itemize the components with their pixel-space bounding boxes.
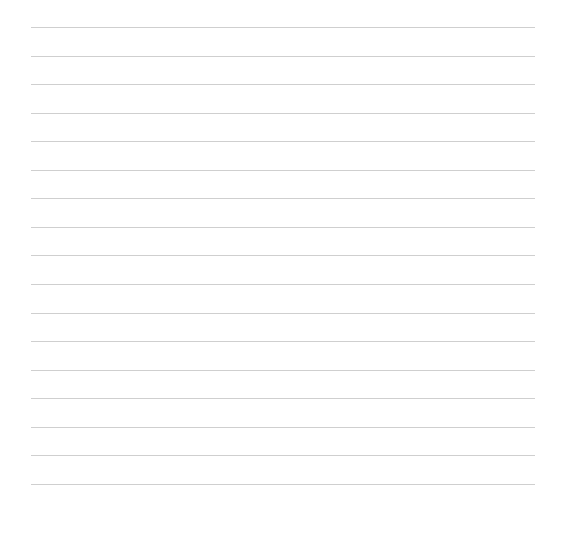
ruled-line xyxy=(31,227,535,228)
ruled-line xyxy=(31,484,535,485)
ruled-line xyxy=(31,141,535,142)
ruled-line xyxy=(31,84,535,85)
ruled-line xyxy=(31,113,535,114)
ruled-line xyxy=(31,284,535,285)
ruled-line xyxy=(31,455,535,456)
ruled-line xyxy=(31,255,535,256)
ruled-line xyxy=(31,313,535,314)
ruled-line xyxy=(31,198,535,199)
ruled-line xyxy=(31,56,535,57)
ruled-line xyxy=(31,398,535,399)
ruled-line xyxy=(31,27,535,28)
ruled-line xyxy=(31,427,535,428)
ruled-line xyxy=(31,370,535,371)
lined-paper-sheet xyxy=(0,0,563,546)
ruled-line xyxy=(31,170,535,171)
ruled-line xyxy=(31,341,535,342)
